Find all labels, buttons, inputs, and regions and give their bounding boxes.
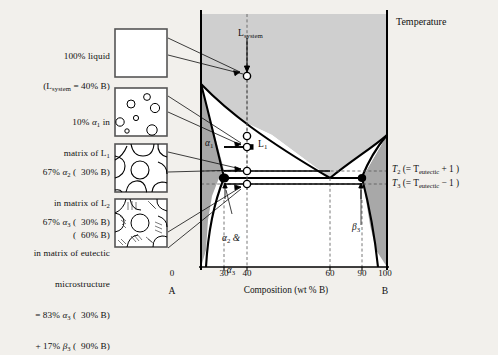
- xtick-40: 40: [240, 268, 254, 278]
- callout-alpha3-line4: = 83% α3 ( 30% B): [2, 310, 110, 321]
- callout-alpha3: 67% α3 ( 30% B) in matrix of eutectic mi…: [2, 196, 110, 355]
- callout-alpha3-line5: + 17% β3 ( 90% B): [2, 341, 110, 352]
- endpoint-label-B: B: [378, 286, 392, 297]
- microstructure-box-alpha2: [115, 144, 167, 192]
- label-T2: T2 (= Teutectic + 1 ): [392, 164, 459, 175]
- microstructure-box-alpha1: [115, 88, 167, 136]
- label-T3: T3 (= Teutectic − 1 ): [392, 178, 459, 189]
- xtick-90: 90: [355, 268, 369, 278]
- xtick-100: 100: [375, 268, 395, 278]
- callout-liquid-line2: (Lsystem = 40% B): [12, 81, 110, 92]
- label-alpha2-line: α2 &: [208, 233, 254, 244]
- callout-liquid: 100% liquid (Lsystem = 40% B): [12, 30, 110, 103]
- callout-alpha3-line2: in matrix of eutectic: [2, 248, 110, 258]
- callout-alpha3-line1: 67% α3 ( 30% B): [2, 217, 110, 228]
- callout-liquid-line1: 100% liquid: [12, 51, 110, 61]
- marker-T2: [243, 167, 250, 174]
- marker-L-system: [243, 72, 250, 79]
- node-alpha-max: [219, 173, 229, 182]
- callout-alpha1-line1: 10% α1 in: [12, 117, 110, 128]
- marker-L1-upper: [243, 132, 250, 139]
- y-axis-title: Temperature: [396, 16, 446, 27]
- xtick-60: 60: [323, 268, 337, 278]
- xtick-30: 30: [217, 268, 231, 278]
- label-beta3: β3: [352, 222, 360, 233]
- endpoint-label-A: A: [166, 286, 178, 297]
- marker-T3: [243, 180, 250, 187]
- marker-L1: [243, 143, 250, 150]
- label-L1: L1: [258, 139, 267, 150]
- xtick-0: 0: [166, 268, 178, 278]
- microstructure-box-liquid: [115, 29, 167, 77]
- microstructure-box-alpha3: [115, 199, 167, 247]
- callout-alpha3-line3: microstructure: [2, 279, 110, 289]
- label-L-system: Lsystem: [238, 28, 263, 39]
- callout-alpha2-line1: 67% α2 ( 30% B): [6, 167, 110, 178]
- x-axis-title: Composition (wt % B): [216, 285, 356, 295]
- label-alpha1: α1: [205, 138, 213, 149]
- node-beta-min: [358, 174, 366, 182]
